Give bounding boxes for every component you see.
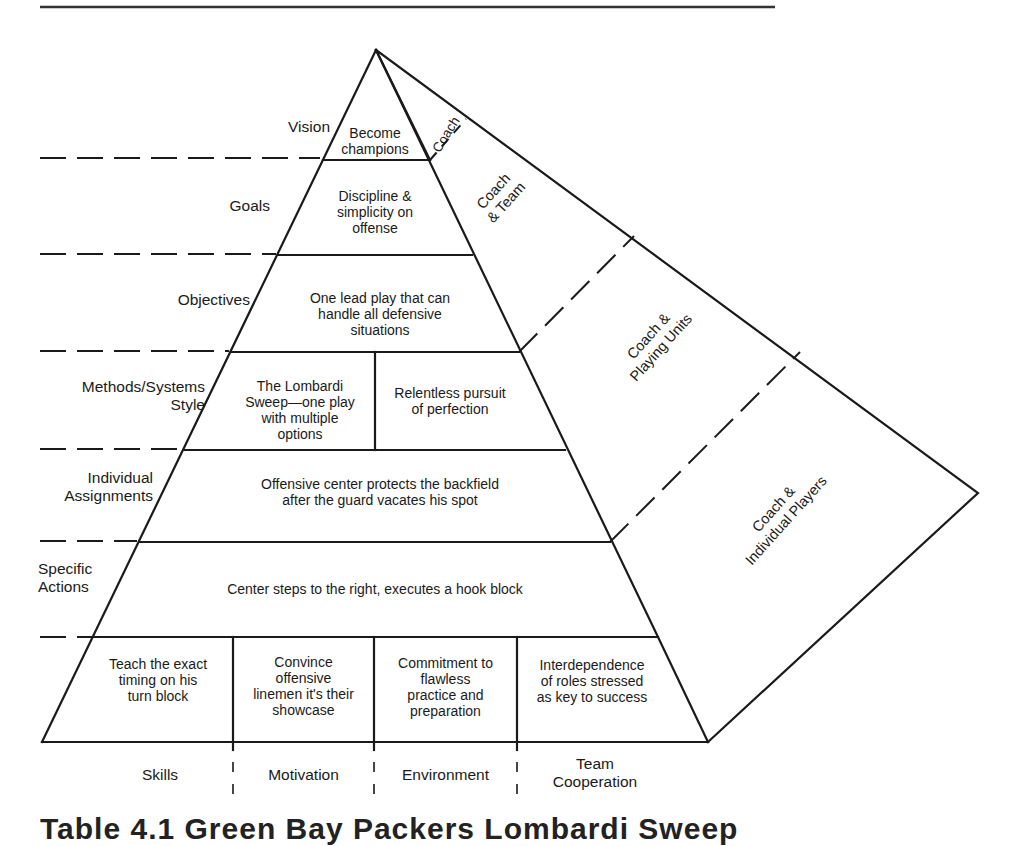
column-label-motivation: Motivation: [233, 766, 374, 784]
base-cell-skills: Teach the exact timing on his turn block: [88, 656, 228, 704]
methods-cell-lombardi: The Lombardi Sweep—one play with multipl…: [225, 378, 375, 442]
actions-content: Center steps to the right, executes a ho…: [150, 581, 600, 597]
goals-content: Discipline & simplicity on offense: [310, 188, 440, 236]
motivation-line: showcase: [233, 702, 374, 718]
objectives-line: One lead play that can: [270, 290, 490, 306]
motivation-line: offensive: [233, 670, 374, 686]
table-title-cutoff: Table 4.1 Green Bay Packers Lombardi Swe…: [40, 812, 738, 846]
goals-line: Discipline &: [310, 188, 440, 204]
goals-line: offense: [310, 220, 440, 236]
vision-line: champions: [325, 141, 425, 157]
objectives-content: One lead play that can handle all defens…: [270, 290, 490, 338]
methods-line: Relentless pursuit: [380, 385, 520, 401]
column-label-team-cooperation: Team Cooperation: [520, 755, 670, 791]
level-label-goals: Goals: [190, 197, 270, 215]
actions-line: Center steps to the right, executes a ho…: [150, 581, 600, 597]
column-label-skills: Skills: [90, 766, 230, 784]
level-label-methods: Methods/Systems Style: [40, 378, 205, 414]
methods-line: The Lombardi: [225, 378, 375, 394]
level-label-objectives: Objectives: [140, 291, 250, 309]
methods-line: of perfection: [380, 401, 520, 417]
cooperation-line: Interdependence: [517, 657, 667, 673]
cooperation-line: of roles stressed: [517, 673, 667, 689]
column-label-environment: Environment: [374, 766, 517, 784]
base-cell-cooperation: Interdependence of roles stressed as key…: [517, 657, 667, 705]
methods-line: options: [225, 426, 375, 442]
vision-content: Become champions: [325, 125, 425, 157]
level-label-vision: Vision: [250, 118, 330, 136]
vision-line: Become: [325, 125, 425, 141]
assignments-content: Offensive center protects the backfield …: [200, 476, 560, 508]
level-label-assignments: Individual Assignments: [40, 469, 153, 505]
skills-line: Teach the exact: [88, 656, 228, 672]
level-label-assignments-line1: Individual: [40, 469, 153, 487]
motivation-line: Convince: [233, 654, 374, 670]
level-label-actions: Specific Actions: [38, 560, 108, 596]
level-label-methods-line1: Methods/Systems: [40, 378, 205, 396]
level-label-actions-line2: Actions: [38, 578, 108, 596]
cooperation-label-line: Cooperation: [520, 773, 670, 791]
motivation-line: linemen it's their: [233, 686, 374, 702]
assignments-line: after the guard vacates his spot: [200, 492, 560, 508]
environment-line: flawless: [374, 671, 517, 687]
assignments-line: Offensive center protects the backfield: [200, 476, 560, 492]
objectives-line: situations: [270, 322, 490, 338]
environment-line: preparation: [374, 703, 517, 719]
goals-line: simplicity on: [310, 204, 440, 220]
methods-line: with multiple: [225, 410, 375, 426]
methods-line: Sweep—one play: [225, 394, 375, 410]
level-label-assignments-line2: Assignments: [40, 487, 153, 505]
skills-line: timing on his: [88, 672, 228, 688]
environment-line: Commitment to: [374, 655, 517, 671]
level-label-actions-line1: Specific: [38, 560, 108, 578]
cooperation-line: as key to success: [517, 689, 667, 705]
base-cell-motivation: Convince offensive linemen it's their sh…: [233, 654, 374, 718]
side-dash-2: [519, 236, 634, 352]
level-label-methods-line2: Style: [40, 396, 205, 414]
base-cell-environment: Commitment to flawless practice and prep…: [374, 655, 517, 719]
methods-cell-perfection: Relentless pursuit of perfection: [380, 385, 520, 417]
cooperation-label-line: Team: [520, 755, 670, 773]
objectives-line: handle all defensive: [270, 306, 490, 322]
skills-line: turn block: [88, 688, 228, 704]
environment-line: practice and: [374, 687, 517, 703]
